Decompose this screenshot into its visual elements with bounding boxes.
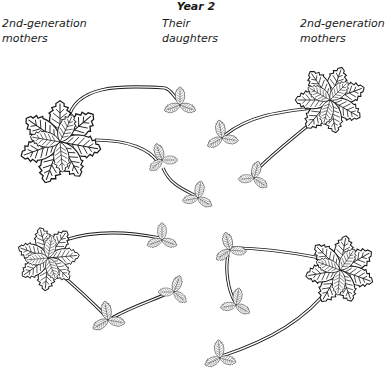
daughter-plant bbox=[202, 117, 240, 150]
daughter-plant bbox=[236, 157, 274, 191]
daughter-plant bbox=[180, 178, 217, 210]
mother-plant-top-left bbox=[17, 101, 102, 187]
daughter-plant bbox=[156, 270, 196, 306]
strawberry-runners-illustration bbox=[0, 0, 392, 379]
daughter-plant bbox=[141, 138, 181, 174]
runners bbox=[58, 87, 332, 356]
daughter-plant bbox=[218, 285, 255, 317]
mother-plant-bottom-right bbox=[298, 230, 381, 313]
